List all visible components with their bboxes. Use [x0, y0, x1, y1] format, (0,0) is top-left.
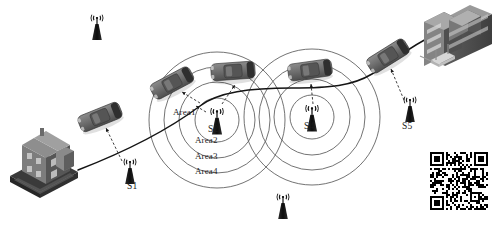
tower-mast: [92, 24, 102, 40]
tower-label-s5: S5: [402, 122, 412, 132]
residential-house: [10, 128, 78, 198]
area-label-2: Area2: [195, 136, 218, 145]
vehicle-c3: [210, 61, 255, 86]
vehicles: [76, 37, 413, 137]
tower-mast: [278, 203, 288, 219]
tower-s5: [404, 97, 416, 122]
vehicle-c1: [76, 101, 125, 137]
vehicle-c2: [149, 65, 198, 105]
qr-code[interactable]: [430, 152, 488, 210]
tower-t0: [91, 15, 103, 40]
diagram-canvas: Area1 Area2 Area3 Area4 S1 S2 S4 S5: [0, 0, 496, 227]
area-label-1: Area1: [173, 108, 196, 117]
office-building: [420, 5, 492, 67]
diagram-svg: [0, 0, 496, 227]
tower-label-s1: S1: [127, 182, 137, 192]
area-label-4: Area4: [195, 167, 218, 176]
tower-mast: [405, 106, 415, 122]
area-label-3: Area3: [195, 152, 218, 161]
tower-t3: [277, 194, 289, 219]
vehicle-c5: [365, 37, 414, 79]
tower-label-s4: S4: [304, 122, 314, 132]
base-stations: [91, 15, 416, 219]
tower-label-s2: S2: [208, 125, 218, 135]
